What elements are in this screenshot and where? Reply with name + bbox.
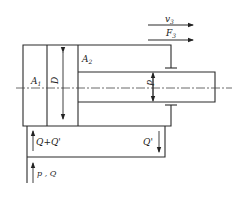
force-label: F3 bbox=[165, 28, 176, 39]
cap-area-label: A1 bbox=[30, 76, 41, 87]
rod-diameter-label: d bbox=[145, 80, 155, 86]
piston-rod bbox=[78, 72, 215, 102]
return-flow-label: Q' bbox=[143, 137, 153, 147]
bore-diameter-label: D bbox=[50, 77, 60, 85]
combined-flow-label: Q+Q' bbox=[36, 137, 61, 147]
cylinder-diagram: v3 F3 D d A1 A2 Q+Q' bbox=[0, 0, 242, 202]
rod-area-label: A2 bbox=[81, 54, 93, 65]
piston bbox=[47, 45, 78, 126]
velocity-label: v3 bbox=[165, 14, 174, 25]
supply-label: p , Q bbox=[37, 169, 57, 178]
